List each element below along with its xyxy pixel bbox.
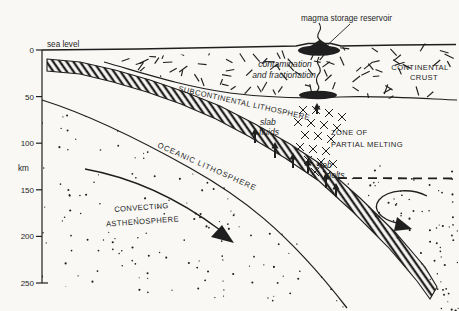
- slab-melts-label-line2: melts: [324, 170, 345, 180]
- wedge-dashed-boundary: [338, 178, 456, 179]
- magma-storage-lens: [298, 45, 340, 55]
- convecting-asthenosphere-label-line1: CONVECTING: [114, 201, 169, 214]
- magma-reservoir-label: magma storage reservoir: [301, 14, 392, 23]
- tick-label-150: 150: [21, 186, 35, 195]
- axis-unit-label: km: [18, 164, 29, 173]
- asthenosphere-stipple-left: [41, 100, 348, 311]
- reservoir-label-leader-line: [328, 24, 350, 45]
- contamination-label-line2: and fractionation: [252, 70, 316, 80]
- subduction-zone-diagram: 0 50 100 150 200 250 km sea level magma …: [0, 0, 459, 311]
- tick-label-250: 250: [21, 279, 35, 288]
- sea-level-line: [42, 44, 456, 51]
- magma-underplate-lens: [299, 91, 337, 100]
- contamination-label-line1: contamination: [258, 59, 312, 69]
- sea-level-label: sea level: [47, 40, 79, 49]
- convecting-asthenosphere-label-line2: ASTHENOSPHERE: [106, 214, 180, 228]
- diagram-canvas: 0 50 100 150 200 250 km sea level magma …: [0, 0, 459, 311]
- slab-fluids-label-line2: fluids: [259, 127, 280, 137]
- oceanic-lithosphere-label: OCEANIC LITHOSPHERE: [156, 141, 258, 193]
- eruption-plume-squiggle: [318, 23, 321, 40]
- slab-fluids-label-line1: slab: [260, 117, 276, 127]
- up-arrow-icon: [313, 103, 320, 114]
- tick-label-0: 0: [30, 46, 35, 55]
- depth-axis: 0 50 100 150 200 250 km: [18, 46, 48, 288]
- zone-partial-melting-label-line2: PARTIAL MELTING: [331, 140, 403, 149]
- zone-partial-melting-label-line1: ZONE OF: [331, 128, 368, 137]
- slab-melts-label-line1: slab: [316, 160, 332, 170]
- tick-label-200: 200: [21, 232, 35, 241]
- continental-crust-label-line2: CRUST: [410, 73, 438, 82]
- continental-crust-label-line1: CONTINENTAL: [391, 63, 448, 72]
- tick-label-100: 100: [21, 139, 35, 148]
- tick-label-50: 50: [25, 93, 34, 102]
